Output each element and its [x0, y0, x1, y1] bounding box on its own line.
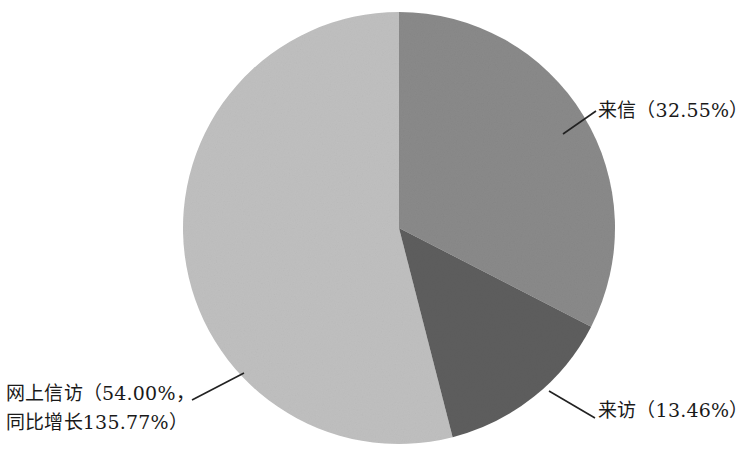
pie-label-letters: 来信（32.55%） [598, 96, 748, 124]
pie-label-online: 网上信访（54.00%， 同比增长135.77%） [6, 379, 236, 437]
pie-chart-figure: 来信（32.55%） 来访（13.46%） 网上信访（54.00%， 同比增长1… [0, 0, 749, 455]
pie-label-online-line2: 同比增长135.77%） [6, 408, 236, 437]
pie-label-visits: 来访（13.46%） [598, 396, 748, 424]
leader-line-visits [549, 391, 595, 418]
pie-label-online-line1: 网上信访（54.00%， [6, 379, 236, 408]
